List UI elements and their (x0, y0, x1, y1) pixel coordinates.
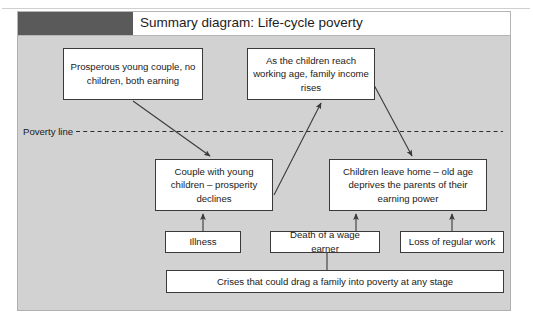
top-divider-rule (2, 8, 530, 9)
node-loss-of-regular-work: Loss of regular work (400, 231, 504, 253)
clipped-header-text: · · · · · · · · · · · · (0, 0, 533, 5)
life-cycle-poverty-figure: · · · · · · · · · · · · Summary diagram:… (0, 0, 533, 331)
node-children-reach-working-age: As the children reach working age, famil… (247, 48, 375, 100)
node-death-of-wage-earner: Death of a wage earner (270, 231, 380, 253)
node-prosperous-young-couple: Prosperous young couple, no children, bo… (63, 48, 203, 100)
title-color-swatch (18, 12, 133, 35)
poverty-line-label: Poverty line (23, 126, 73, 137)
page-title: Summary diagram: Life-cycle poverty (140, 15, 500, 30)
node-illness: Illness (165, 231, 241, 253)
node-crises-summary-bar: Crises that could drag a family into pov… (166, 270, 504, 293)
node-children-leave-home: Children leave home – old age deprives t… (329, 159, 487, 211)
node-couple-with-young-children: Couple with young children – prosperity … (155, 159, 273, 211)
